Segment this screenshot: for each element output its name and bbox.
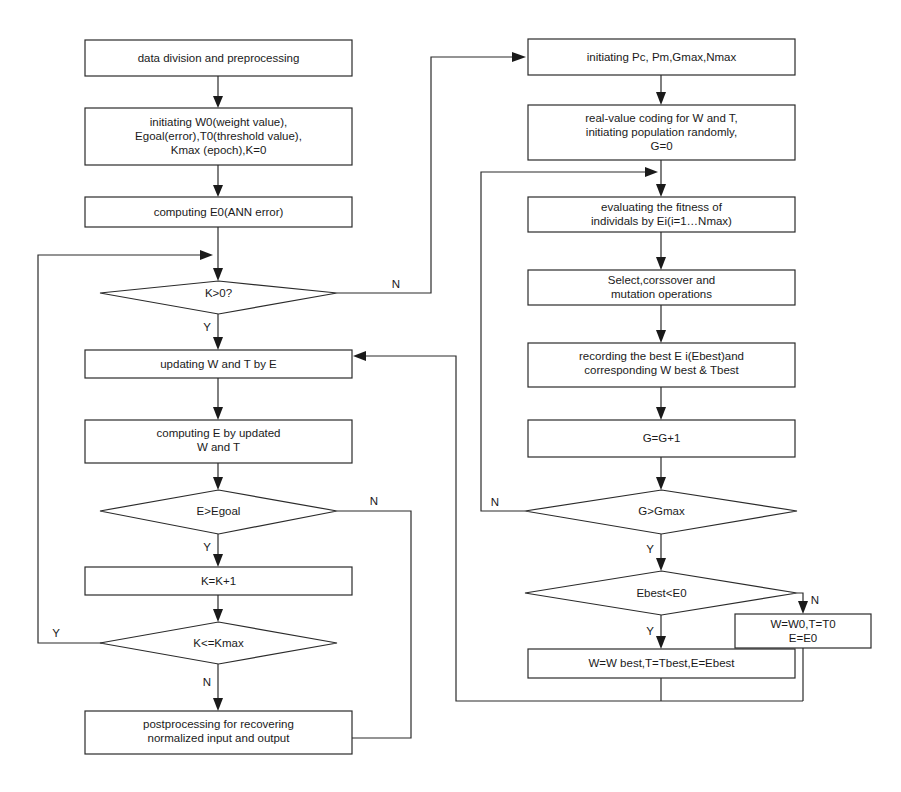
edge-label-k-le-kmax-yes: Y <box>52 627 60 639</box>
arrowhead-icon <box>213 268 223 281</box>
node-computing-e0[interactable]: computing E0(ANN error) <box>85 197 352 227</box>
node-k-increment[interactable]: K=K+1 <box>85 567 352 595</box>
arrowhead-icon <box>656 636 666 649</box>
arrowhead-icon <box>213 185 223 197</box>
arrowhead-icon <box>512 52 526 62</box>
svg-text:updating W and T by E: updating W and T by E <box>160 358 277 370</box>
edge-label-g-gt-gmax-yes: Y <box>646 543 654 555</box>
svg-text:G=G+1: G=G+1 <box>643 432 681 444</box>
arrowhead-icon <box>200 250 213 260</box>
arrowhead-icon <box>213 407 223 420</box>
arrowhead-icon <box>213 96 223 108</box>
node-select-crossover[interactable]: Select,corssover andmutation operations <box>528 270 795 305</box>
edge-label-ebest-no: N <box>811 594 819 606</box>
svg-text:K>0?: K>0? <box>205 287 232 299</box>
node-initiating-w0[interactable]: initiating W0(weight value),Egoal(error)… <box>85 108 352 165</box>
flowchart-svg: data division and preprocessing initiati… <box>0 0 901 792</box>
node-e-gt-egoal[interactable]: E>Egoal <box>100 490 337 534</box>
node-data-division[interactable]: data division and preprocessing <box>85 40 352 76</box>
arrowhead-icon <box>798 601 808 614</box>
edge-label-g-gt-gmax-no: N <box>491 496 499 508</box>
edge-label-e-gt-egoal-no: N <box>370 495 378 507</box>
node-recording-best[interactable]: recording the best E i(Ebest)andcorrespo… <box>528 343 795 387</box>
flowchart-canvas: data division and preprocessing initiati… <box>0 0 901 792</box>
arrowhead-icon <box>213 477 223 490</box>
arrowhead-icon <box>353 351 366 361</box>
arrowhead-icon <box>656 477 666 490</box>
arrowhead-icon <box>645 167 658 177</box>
node-layer: data division and preprocessing initiati… <box>85 39 871 754</box>
node-real-value-coding[interactable]: real-value coding for W and T,initiating… <box>528 105 795 160</box>
svg-text:initiating Pc, Pm,Gmax,Nmax: initiating Pc, Pm,Gmax,Nmax <box>587 51 737 63</box>
edge-label-e-gt-egoal-yes: Y <box>203 541 211 553</box>
svg-text:W=W best,T=Tbest,E=Ebest: W=W best,T=Tbest,E=Ebest <box>588 657 735 669</box>
svg-text:E>Egoal: E>Egoal <box>197 505 241 517</box>
edge-label-layer: N Y N Y Y N N Y N Y <box>52 278 819 688</box>
node-postprocessing[interactable]: postprocessing for recoveringnormalized … <box>85 711 352 754</box>
node-g-increment[interactable]: G=G+1 <box>528 420 795 457</box>
node-g-gt-gmax[interactable]: G>Gmax <box>525 490 797 534</box>
edge-k-gt-0-no-to-initiating-pc <box>337 57 512 293</box>
svg-text:K=K+1: K=K+1 <box>201 575 236 587</box>
svg-text:G>Gmax: G>Gmax <box>638 505 685 517</box>
arrowhead-icon <box>213 337 223 350</box>
edge-label-k-gt-0-no: N <box>392 278 400 290</box>
arrowhead-icon <box>656 257 666 270</box>
edge-label-ebest-yes: Y <box>646 625 654 637</box>
node-computing-e[interactable]: computing E by updatedW and T <box>85 420 352 463</box>
node-k-le-kmax[interactable]: K<=Kmax <box>100 622 337 664</box>
node-ebest-lt-e0[interactable]: Ebest<E0 <box>525 571 797 615</box>
node-updating-wt[interactable]: updating W and T by E <box>85 350 352 378</box>
node-k-gt-0[interactable]: K>0? <box>100 281 337 314</box>
node-initiating-pc[interactable]: initiating Pc, Pm,Gmax,Nmax <box>528 39 795 75</box>
node-assign-best[interactable]: W=W best,T=Tbest,E=Ebest <box>528 649 795 678</box>
arrowhead-icon <box>213 554 223 567</box>
edge-label-k-le-kmax-no: N <box>203 676 211 688</box>
edge-e-gt-egoal-no-to-postprocessing <box>245 511 411 738</box>
edge-label-k-gt-0-yes: Y <box>203 321 211 333</box>
arrowhead-icon <box>656 330 666 343</box>
arrowhead-icon <box>213 609 223 622</box>
svg-text:computing E0(ANN error): computing E0(ANN error) <box>154 206 284 218</box>
node-evaluating-fitness[interactable]: evaluating the fitness ofindividals by E… <box>528 197 795 232</box>
arrowhead-icon <box>656 92 666 105</box>
arrowhead-icon <box>656 558 666 571</box>
svg-text:data division and preprocessin: data division and preprocessing <box>138 52 300 64</box>
arrowhead-icon <box>213 698 223 711</box>
arrowhead-icon <box>656 407 666 420</box>
svg-text:Ebest<E0: Ebest<E0 <box>636 587 686 599</box>
arrowhead-icon <box>656 184 666 197</box>
svg-text:K<=Kmax: K<=Kmax <box>193 637 244 649</box>
node-assign-initial[interactable]: W=W0,T=T0E=E0 <box>735 614 871 648</box>
